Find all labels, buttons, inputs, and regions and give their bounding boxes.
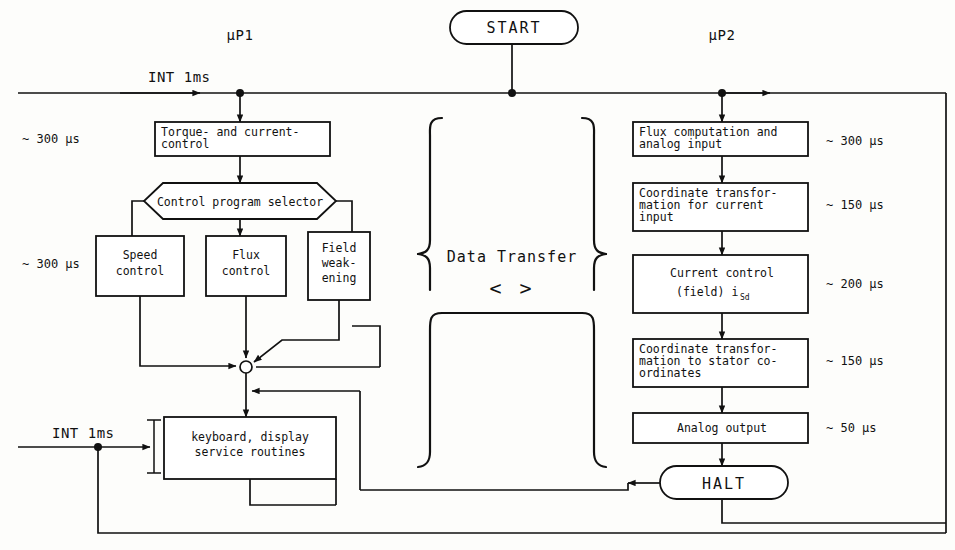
keyboard-loop-out — [250, 479, 336, 505]
left-timing-1: ~ 300 µs — [22, 257, 80, 271]
field-to-merge-path — [254, 300, 339, 362]
halt-to-return-rail — [722, 499, 946, 523]
box-flux-comp-line2: analog input — [639, 137, 722, 151]
int-top-label: INT 1ms — [148, 69, 211, 85]
label-processor-1: µP1 — [227, 27, 254, 43]
label-processor-2: µP2 — [709, 27, 736, 43]
left-timing-0: ~ 300 µs — [22, 132, 80, 146]
start-terminator-label: START — [486, 19, 541, 37]
box-field-line1: Field — [322, 241, 357, 255]
data-transfer-bracket-top-right — [582, 118, 606, 254]
box-flux-line1: Flux — [232, 248, 260, 262]
bus-junction-start — [508, 89, 516, 97]
halt-left-feedback-path — [360, 483, 628, 490]
right-timing-3: ~ 150 µs — [826, 354, 884, 368]
flowchart-svg: µP1 µP2 START INT 1ms ~ 300 µs ~ 300 µs … — [0, 0, 955, 550]
box-analog-out-line1: Analog output — [677, 421, 767, 435]
box-speed-line1: Speed — [123, 248, 158, 262]
box-coord-in-line3: input — [639, 210, 674, 224]
right-timing-0: ~ 300 µs — [826, 134, 884, 148]
data-transfer-bracket-top-left-tail — [418, 254, 430, 290]
box-current-ctrl-line1: Current control — [670, 266, 774, 280]
right-timing-1: ~ 150 µs — [826, 198, 884, 212]
box-torque-line2: control — [161, 137, 209, 151]
speed-to-merge-path — [140, 296, 236, 366]
selector-label: Control program selector — [157, 195, 323, 209]
box-field-line2: weak- — [322, 256, 357, 270]
box-current-ctrl-line2: (field) i — [676, 285, 738, 299]
box-flux-line2: control — [222, 264, 270, 278]
box-current-ctrl-subscript: Sd — [740, 293, 750, 302]
box-keyboard-line1: keyboard, display — [191, 430, 309, 444]
right-timing-4: ~ 50 µs — [826, 421, 877, 435]
right-timing-2: ~ 200 µs — [826, 277, 884, 291]
data-transfer-label: Data Transfer — [447, 248, 577, 266]
data-transfer-bracket-bottom-right — [582, 313, 606, 467]
data-transfer-bracket-top-left — [418, 118, 442, 254]
data-transfer-arrow-symbol: < > — [489, 276, 534, 300]
int-bottom-label: INT 1ms — [52, 425, 115, 441]
data-transfer-bracket-top-right-tail — [594, 254, 606, 290]
box-keyboard-line2: service routines — [195, 445, 306, 459]
selector-branch-right — [336, 201, 352, 236]
box-field-line3: ening — [322, 271, 357, 285]
data-transfer-bracket-bottom-left — [418, 313, 442, 467]
merge-junction-node — [240, 361, 252, 373]
box-speed-line2: control — [116, 264, 164, 278]
halt-terminator-label: HALT — [702, 475, 746, 493]
merge-right-inflow-riser — [352, 326, 380, 367]
box-coord-out-line3: ordinates — [639, 366, 701, 380]
selector-branch-left — [132, 201, 144, 236]
box-current-control[interactable] — [633, 255, 808, 313]
flowchart-canvas: µP1 µP2 START INT 1ms ~ 300 µs ~ 300 µs … — [0, 0, 955, 550]
